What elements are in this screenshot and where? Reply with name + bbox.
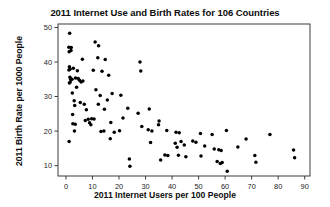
data-point (293, 156, 297, 160)
data-point (215, 160, 219, 164)
y-axis-ticks: 1020304050 (44, 23, 58, 170)
data-point (212, 147, 216, 151)
data-point (292, 148, 296, 152)
data-point (94, 88, 98, 92)
data-point (210, 133, 214, 137)
data-point (225, 129, 229, 133)
x-axis-ticks: 0102030405060708090 (64, 176, 309, 191)
data-point (254, 160, 258, 164)
data-point (203, 144, 207, 148)
data-point (140, 125, 144, 129)
x-tick-label: 50 (194, 182, 202, 191)
data-point (67, 140, 71, 144)
data-point (84, 119, 88, 123)
data-point (268, 133, 272, 137)
data-point (102, 129, 106, 133)
data-point (149, 141, 153, 145)
data-point (157, 123, 161, 127)
x-tick-label: 30 (141, 182, 149, 191)
y-tick-label: 20 (44, 127, 52, 136)
plot-frame (58, 24, 310, 176)
data-point (191, 139, 195, 143)
data-point (107, 73, 111, 77)
data-point (253, 154, 257, 158)
data-point (70, 78, 74, 82)
data-point (199, 154, 203, 158)
x-tick-label: 20 (115, 182, 123, 191)
data-point (100, 70, 104, 74)
x-tick-label: 90 (301, 182, 309, 191)
data-point (68, 32, 72, 36)
data-point (225, 169, 229, 173)
x-tick-label: 40 (168, 182, 176, 191)
data-point (75, 85, 79, 89)
data-point (98, 94, 102, 98)
data-point (220, 161, 224, 165)
plot-frame-border (58, 24, 310, 176)
data-point (106, 98, 110, 102)
data-point (71, 113, 75, 117)
data-point (128, 165, 132, 169)
data-point (73, 129, 77, 133)
data-point (110, 92, 114, 96)
data-point (175, 146, 179, 150)
data-point (174, 141, 178, 145)
x-tick-label: 80 (274, 182, 282, 191)
data-point (81, 57, 85, 61)
data-point (177, 154, 181, 158)
data-point (92, 117, 96, 121)
data-point (92, 69, 96, 73)
data-point (85, 108, 89, 112)
data-point (118, 129, 122, 133)
data-point (72, 99, 76, 103)
data-point (244, 137, 248, 141)
x-tick-label: 10 (88, 182, 96, 191)
data-point (71, 91, 75, 95)
data-point (136, 111, 140, 115)
data-point (199, 132, 203, 136)
y-tick-label: 10 (44, 161, 52, 170)
data-point (103, 58, 107, 62)
y-tick-label: 40 (44, 58, 52, 67)
data-point (121, 116, 125, 120)
data-point (76, 69, 80, 73)
data-point (146, 128, 150, 132)
data-point (165, 129, 169, 133)
data-point (109, 137, 113, 141)
data-point (103, 108, 107, 112)
scatter-plot-figure: 2011 Internet Use and Birth Rates for 10… (0, 0, 330, 207)
y-tick-label: 30 (44, 92, 52, 101)
data-point (70, 46, 74, 50)
data-point (69, 49, 73, 53)
data-point (157, 119, 161, 123)
data-point (163, 153, 167, 157)
y-tick-label: 50 (44, 23, 52, 32)
data-point (73, 104, 77, 108)
data-point (119, 93, 123, 97)
data-point (112, 130, 116, 134)
data-point (177, 131, 181, 135)
data-point (166, 154, 170, 158)
plot-canvas: 0102030405060708090 1020304050 (0, 0, 330, 207)
data-point (79, 101, 83, 105)
data-point (194, 140, 198, 144)
data-point (83, 102, 87, 106)
data-point (89, 123, 93, 127)
data-point (72, 66, 76, 70)
data-point (219, 149, 223, 153)
data-point (159, 158, 163, 162)
data-point (68, 81, 72, 85)
data-point (184, 155, 188, 159)
data-point (81, 79, 85, 83)
data-point (126, 107, 130, 111)
x-tick-label: 60 (221, 182, 229, 191)
data-point (96, 56, 100, 60)
data-point (150, 129, 154, 133)
x-tick-label: 70 (248, 182, 256, 191)
data-point (97, 102, 101, 106)
x-tick-label: 0 (64, 182, 68, 191)
data-point (73, 122, 77, 126)
data-point (179, 140, 183, 144)
data-point (109, 121, 113, 125)
data-point (236, 145, 240, 149)
